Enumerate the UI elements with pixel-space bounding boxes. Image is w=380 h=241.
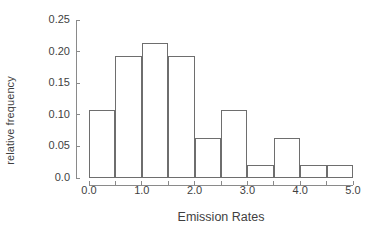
histogram-bar [142,43,168,178]
histogram-bar [300,165,326,178]
histogram-bar [115,56,141,178]
histogram-bar [327,165,353,178]
y-axis-tick-label: 0.10 [26,109,70,120]
x-axis-tick-label: 3.0 [227,184,267,196]
histogram-bar [221,110,247,178]
x-axis-tick-label: 0.0 [69,184,109,196]
histogram-figure: 0.00.050.100.150.200.25 0.01.02.03.04.05… [0,0,380,241]
histogram-bar [247,165,273,178]
x-axis-tick-label: 1.0 [122,184,162,196]
y-axis-tick-label: 0.0 [26,172,70,183]
x-axis-title: Emission Rates [89,210,353,224]
y-axis-tick-label: 0.15 [26,77,70,88]
y-axis-tick-label: 0.25 [26,14,70,25]
histogram-bar [274,138,300,178]
y-axis-tick-label: 0.05 [26,140,70,151]
x-axis-tick-labels: 0.01.02.03.04.05.0 [0,184,380,200]
y-axis-tick-label: 0.20 [26,46,70,57]
histogram-bar [195,138,221,178]
y-axis-tick-labels: 0.00.050.100.150.200.25 [26,0,70,241]
x-axis-tick-label: 2.0 [175,184,215,196]
plot-area [89,20,353,178]
x-axis-tick-label: 4.0 [280,184,320,196]
y-axis-title: relative frequency [0,0,20,241]
histogram-bar [168,56,194,178]
histogram-bar [89,110,115,178]
x-axis-tick-label: 5.0 [333,184,373,196]
